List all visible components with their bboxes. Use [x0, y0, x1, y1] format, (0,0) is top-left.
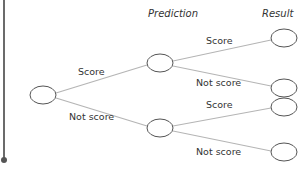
result-node-3	[271, 98, 297, 116]
prediction-node-not-score	[147, 119, 173, 137]
decision-tree-diagram: Prediction Result Score Not score Score …	[0, 0, 307, 175]
root-node	[30, 86, 56, 104]
tree-graphics	[0, 0, 307, 175]
edge-label-prediction2-score: Score	[206, 99, 233, 110]
edge-label-root-not-score: Not score	[69, 111, 114, 122]
result-node-1	[271, 29, 297, 47]
edge-label-root-score: Score	[78, 66, 105, 77]
edge-label-prediction1-not-score: Not score	[196, 77, 241, 88]
prediction-header: Prediction	[148, 8, 198, 19]
result-node-4	[271, 143, 297, 161]
edge-label-prediction2-not-score: Not score	[196, 146, 241, 157]
edge-prediction2-to-result3	[173, 108, 271, 126]
prediction-node-score	[147, 54, 173, 72]
edge-label-prediction1-score: Score	[206, 35, 233, 46]
result-node-2	[271, 79, 297, 97]
result-header: Result	[262, 8, 293, 19]
